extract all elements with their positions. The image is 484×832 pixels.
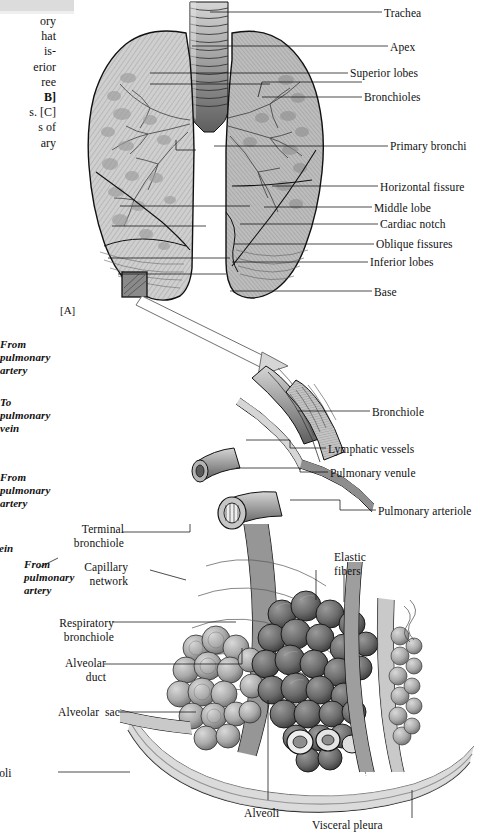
label-bronchiole: Bronchiole — [372, 405, 424, 419]
label-bronchioles: Bronchioles — [364, 90, 421, 104]
label-alveoli: Alveoli — [244, 806, 279, 820]
body-line-2: is- — [0, 44, 56, 59]
label-alveolar-sac: Alveolar sac — [28, 705, 120, 719]
body-line-3: erior — [0, 60, 56, 75]
label-alveolar-duct: Alveolarduct — [44, 656, 106, 684]
label-cardiac-notch: Cardiac notch — [380, 217, 445, 231]
lung-left-organ — [226, 31, 323, 298]
magnified-region-box — [122, 272, 147, 297]
alveolar-detail-illustration — [120, 366, 474, 812]
label-from-pulmonary-artery-1: Frompulmonaryartery — [0, 338, 62, 377]
label-superior-lobes: Superior lobes — [350, 66, 418, 80]
lung-right-organ — [88, 31, 194, 300]
label-oblique-fissures: Oblique fissures — [376, 237, 453, 251]
trachea — [190, 2, 228, 132]
label-pulmonary-venule: Pulmonary venule — [330, 466, 416, 480]
body-line-1: hat — [0, 29, 56, 44]
label-middle-lobe: Middle lobe — [374, 201, 431, 215]
body-text-column: ory hat is- erior ree B] s. [C] s of ary — [0, 14, 56, 151]
body-line-0: ory — [0, 14, 56, 29]
label-primary-bronchi: Primary bronchi — [390, 139, 467, 153]
body-line-6: s. [C] — [0, 105, 56, 120]
label-apex: Apex — [390, 40, 415, 54]
label-terminal-bronchiole: Terminalbronchiole — [62, 522, 124, 550]
label-lymphatic-vessels: Lymphatic vessels — [328, 442, 414, 456]
label-trachea: Trachea — [384, 6, 421, 20]
body-line-4: ree — [0, 75, 56, 90]
panel-tag-a: [A] — [60, 304, 75, 316]
label-base: Base — [374, 285, 397, 299]
label-capillary-network: Capillarynetwork — [72, 560, 128, 588]
terminal-bronchiole-cut — [218, 492, 282, 529]
body-line-5: B] — [0, 90, 56, 105]
label-vein-clipped: vein — [0, 542, 13, 555]
label-elastic-fibers: Elasticfibers — [334, 550, 382, 578]
label-from-pulmonary-artery-2: Frompulmonaryartery — [0, 471, 62, 510]
callout-arrow — [136, 296, 288, 376]
label-pulmonary-arteriole: Pulmonary arteriole — [378, 504, 472, 518]
body-line-7: s of — [0, 120, 56, 135]
label-alveoli-clipped: eoli — [0, 766, 12, 780]
body-line-8: ary — [0, 136, 56, 151]
lungs-illustration — [88, 2, 323, 376]
label-respiratory-bronchiole: Respiratorybronchiole — [44, 616, 114, 644]
label-visceral-pleura: Visceral pleura — [312, 818, 383, 832]
label-horizontal-fissure: Horizontal fissure — [380, 180, 465, 194]
label-inferior-lobes: Inferior lobes — [370, 255, 434, 269]
label-to-pulmonary-vein: Topulmonaryvein — [0, 396, 62, 435]
cut-vessel-upper — [192, 448, 240, 482]
